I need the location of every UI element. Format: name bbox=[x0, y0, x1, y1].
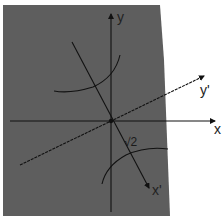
origin-point bbox=[109, 119, 113, 123]
y-axis-label: y bbox=[117, 9, 124, 25]
vertex-distance-label: √2 bbox=[124, 135, 138, 149]
x-axis-label: x bbox=[214, 121, 221, 137]
y-prime-axis-label: y' bbox=[200, 82, 210, 98]
x-prime-axis-label: x' bbox=[152, 182, 162, 198]
gray-panel bbox=[3, 5, 170, 216]
diagram-canvas: y x y' x' √2 bbox=[0, 0, 224, 216]
